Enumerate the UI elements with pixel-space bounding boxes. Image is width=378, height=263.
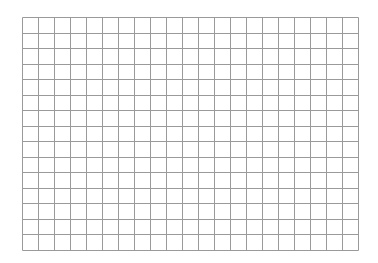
- blank-grid: [22, 17, 360, 252]
